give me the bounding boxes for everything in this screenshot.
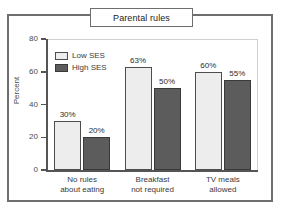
x-axis-category-label: TV mealsallowed xyxy=(178,175,268,195)
bar-value-label: 63% xyxy=(120,56,157,65)
y-axis-title: Percent xyxy=(12,63,21,119)
legend-label: High SES xyxy=(72,63,107,72)
chart-legend: Low SESHigh SES xyxy=(55,50,107,74)
bar xyxy=(83,137,110,170)
legend-label: Low SES xyxy=(72,51,105,60)
bar-value-label: 30% xyxy=(49,110,86,119)
y-axis-tick xyxy=(41,137,46,139)
x-axis-category-label-line: allowed xyxy=(178,185,268,195)
bar xyxy=(125,67,152,170)
y-axis-tick xyxy=(41,71,46,73)
bar xyxy=(54,121,81,170)
legend-item: Low SES xyxy=(55,50,107,61)
bar-value-label: 55% xyxy=(219,69,256,78)
y-axis-tick xyxy=(41,169,46,171)
bar xyxy=(195,72,222,170)
x-axis-line xyxy=(46,170,258,172)
bar xyxy=(154,88,181,170)
y-axis-tick xyxy=(41,38,46,40)
y-axis-tick-label: 20 xyxy=(12,132,38,141)
legend-swatch-icon xyxy=(55,52,68,60)
y-axis-line xyxy=(46,39,48,171)
x-axis-category-label-line: TV meals xyxy=(178,175,268,185)
y-axis-tick xyxy=(41,104,46,106)
y-axis-tick-label: 80 xyxy=(12,34,38,43)
legend-swatch-icon xyxy=(55,64,68,72)
chart-title: Parental rules xyxy=(113,13,170,23)
bar-value-label: 50% xyxy=(149,77,186,86)
chart-figure: Parental rules 020406080 Percent 30%20%6… xyxy=(0,0,283,220)
chart-title-box: Parental rules xyxy=(90,8,193,27)
bar-value-label: 20% xyxy=(78,126,115,135)
bar xyxy=(224,80,251,170)
y-axis-tick-label: 0 xyxy=(12,165,38,174)
legend-item: High SES xyxy=(55,62,107,73)
